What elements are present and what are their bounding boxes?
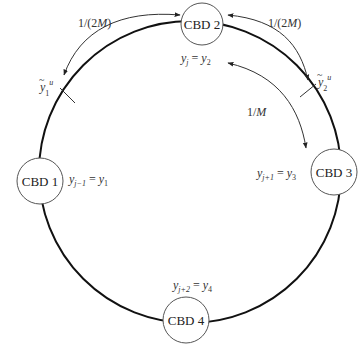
city-ring-diagram: 1/(2M) 1/(2M) 1/M y1u ~ y2u ~ CBD 2 CBD …: [0, 0, 358, 352]
annotation-cbd2: yj = y2: [180, 51, 211, 67]
marker-label-y1: y1u ~: [39, 74, 53, 98]
node-cbd1: CBD 1: [17, 158, 63, 204]
annotation-cbd3: yj+1 = y3: [256, 166, 296, 182]
node-cbd4: CBD 4: [163, 297, 209, 343]
arc-label-right-half: 1/(2M): [268, 16, 301, 30]
node-cbd3: CBD 3: [311, 149, 357, 195]
svg-text:~: ~: [39, 74, 45, 85]
marker-label-y2: y2u ~: [317, 69, 331, 93]
svg-text:CBD 4: CBD 4: [168, 313, 205, 328]
svg-text:CBD 3: CBD 3: [316, 165, 352, 180]
node-cbd2: CBD 2: [181, 3, 223, 45]
arc-label-right-full: 1/M: [247, 105, 267, 119]
annotation-cbd4: yj+2 = y4: [172, 278, 212, 294]
marker-tick-y2: [300, 84, 316, 97]
arc-right-full: [228, 63, 306, 148]
svg-text:CBD 1: CBD 1: [22, 174, 58, 189]
svg-text:CBD 2: CBD 2: [184, 17, 220, 32]
marker-tick-y1: [60, 88, 75, 103]
svg-text:~: ~: [317, 69, 323, 80]
annotation-cbd1: yj−1 = y1: [68, 172, 108, 188]
arc-label-left-half: 1/(2M): [78, 16, 111, 30]
